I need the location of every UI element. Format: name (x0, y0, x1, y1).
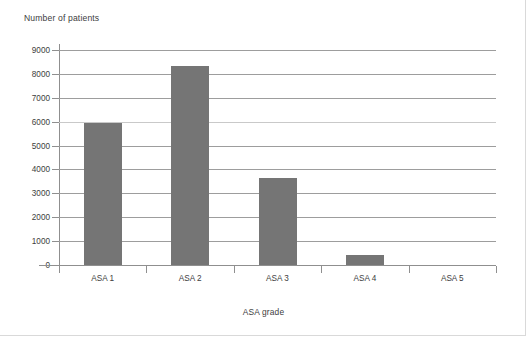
x-axis-tick-mark (321, 266, 322, 273)
bar (346, 255, 384, 265)
x-axis-tick-label: ASA 5 (441, 274, 464, 283)
x-axis-tick-mark (59, 266, 60, 273)
gridline (59, 74, 496, 75)
x-axis-tick-label: ASA 1 (91, 274, 114, 283)
y-axis-tick-mark (52, 50, 59, 51)
gridline (59, 50, 496, 51)
x-axis-line (39, 265, 496, 266)
plot-area (59, 50, 496, 265)
y-axis-tick-label: 1000 (32, 237, 50, 246)
bar (259, 178, 297, 265)
y-axis-tick-mark (52, 265, 59, 266)
x-axis-tick-mark (409, 266, 410, 273)
gridline (59, 122, 496, 123)
y-axis-tick-label: 2000 (32, 213, 50, 222)
chart-screenshot: Number of patients 010002000300040005000… (0, 0, 527, 337)
y-axis-tick-mark (52, 217, 59, 218)
y-axis-tick-label: 9000 (32, 46, 50, 55)
bar (171, 66, 209, 265)
y-axis-tick-mark (52, 193, 59, 194)
y-axis-tick-mark (52, 98, 59, 99)
y-axis-tick-label: 5000 (32, 142, 50, 151)
x-axis-tick-mark (146, 266, 147, 273)
y-axis-tick-label: 4000 (32, 165, 50, 174)
x-axis-title: ASA grade (243, 307, 284, 317)
y-axis-tick-mark (52, 169, 59, 170)
y-axis-tick-label: 6000 (32, 118, 50, 127)
bar (84, 123, 122, 265)
y-axis-tick-label: 8000 (32, 70, 50, 79)
y-axis-tick-labels: 0100020003000400050006000700080009000 (0, 50, 50, 265)
x-axis-tick-label: ASA 2 (179, 274, 202, 283)
x-axis-tick-label: ASA 3 (266, 274, 289, 283)
x-axis-tick-mark (496, 266, 497, 273)
gridline (59, 146, 496, 147)
y-axis-tick-mark (52, 241, 59, 242)
gridline (59, 98, 496, 99)
y-axis-tick-mark (52, 122, 59, 123)
y-axis-tick-label: 3000 (32, 189, 50, 198)
x-axis-tick-mark (234, 266, 235, 273)
y-axis-title: Number of patients (24, 13, 99, 23)
x-axis-tick-label: ASA 4 (354, 274, 377, 283)
gridline (59, 169, 496, 170)
y-axis-tick-mark (52, 146, 59, 147)
y-axis-tick-mark (52, 74, 59, 75)
y-axis-tick-label: 7000 (32, 94, 50, 103)
